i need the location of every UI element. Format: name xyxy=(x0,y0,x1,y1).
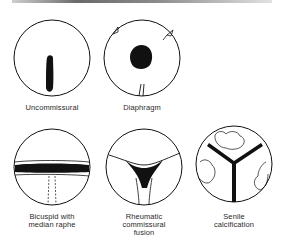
senile-valve-drawing xyxy=(0,0,296,243)
label-senile: Senile calcification xyxy=(189,213,279,229)
